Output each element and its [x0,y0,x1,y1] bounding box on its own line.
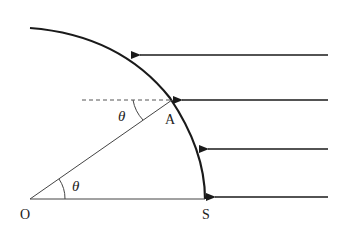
label-o: O [20,207,30,222]
angle-arc-o [59,179,65,199]
label-theta-a: θ [118,108,126,124]
angle-arc-a [133,100,143,120]
label-theta-o: θ [72,178,80,194]
label-a: A [165,112,176,127]
radius-oa [30,100,172,199]
diagram-canvas: O S A θ θ [0,0,345,233]
label-s: S [202,207,210,222]
